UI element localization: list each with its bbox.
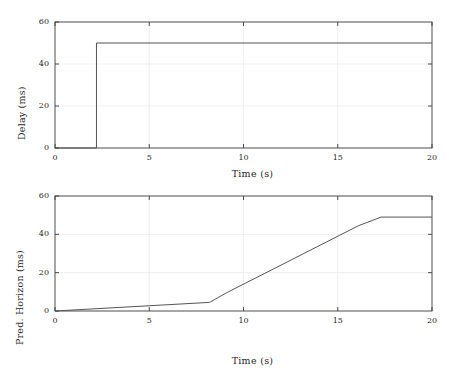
- x-tick-label: 10: [232, 153, 256, 162]
- x-tick-label: 15: [326, 316, 350, 325]
- y-tick-label: 60: [29, 17, 49, 26]
- y-tick-label: 40: [29, 229, 49, 238]
- figure-container: Delay (ms) Time (s) 051015200204060 Pred…: [0, 0, 455, 371]
- x-tick-label: 0: [43, 316, 67, 325]
- y-tick-label: 20: [29, 101, 49, 110]
- x-tick-label: 20: [420, 316, 444, 325]
- delay-plot-area: [0, 0, 455, 186]
- x-tick-label: 15: [326, 153, 350, 162]
- x-tick-label: 10: [232, 316, 256, 325]
- x-tick-label: 0: [43, 153, 67, 162]
- delay-panel: Delay (ms) Time (s) 051015200204060: [0, 0, 455, 186]
- delay-x-axis-label: Time (s): [25, 168, 455, 179]
- y-tick-label: 0: [29, 143, 49, 152]
- pred-horizon-y-axis-label: Pred. Horizon (ms): [14, 250, 25, 345]
- y-tick-label: 60: [29, 191, 49, 200]
- x-tick-label: 5: [137, 316, 161, 325]
- pred-horizon-plot-area: [0, 185, 455, 371]
- x-tick-label: 20: [420, 153, 444, 162]
- x-tick-label: 5: [137, 153, 161, 162]
- delay-y-axis-label: Delay (ms): [16, 86, 27, 140]
- pred-horizon-panel: Pred. Horizon (ms) Time (s) 051015200204…: [0, 185, 455, 371]
- y-tick-label: 0: [29, 306, 49, 315]
- y-tick-label: 20: [29, 268, 49, 277]
- y-tick-label: 40: [29, 59, 49, 68]
- pred-horizon-x-axis-label: Time (s): [25, 355, 455, 366]
